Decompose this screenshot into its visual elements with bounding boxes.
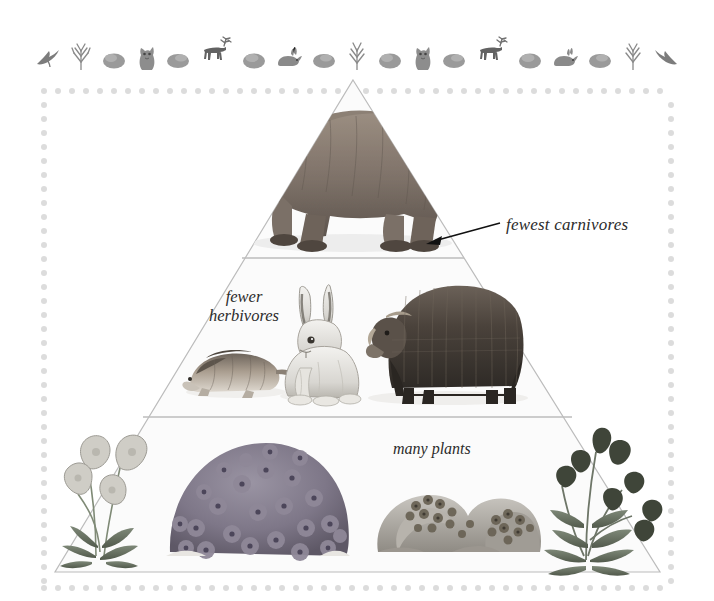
label-fewer-herbivores-line2: herbivores <box>196 306 292 325</box>
label-fewest-carnivores: fewest carnivores <box>506 215 628 235</box>
label-many-plants: many plants <box>393 440 471 459</box>
figure-canvas: fewest carnivores fewer herbivores many … <box>0 0 714 601</box>
label-fewer-herbivores-line1: fewer <box>196 287 292 306</box>
label-fewer-herbivores: fewer herbivores <box>196 287 292 326</box>
energy-pyramid <box>0 0 714 601</box>
